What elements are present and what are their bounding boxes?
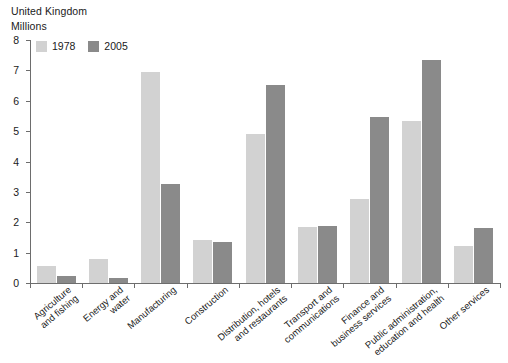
x-axis-category-label: Manufacturing bbox=[124, 284, 177, 331]
y-axis-tick-label: 5 bbox=[13, 125, 19, 137]
bar-2005-4 bbox=[266, 85, 285, 283]
x-axis-category-label: Energy andwater bbox=[81, 284, 132, 332]
bar-1978-4 bbox=[246, 134, 265, 283]
bar-1978-3 bbox=[193, 240, 212, 283]
bar-2005-7 bbox=[422, 60, 441, 283]
plot-area: 876543210 bbox=[30, 40, 500, 283]
bar-2005-5 bbox=[318, 226, 337, 283]
bar-2005-6 bbox=[370, 117, 389, 283]
x-axis-category-labels: Agricultureand fishingEnergy andwaterMan… bbox=[30, 284, 508, 363]
bar-1978-6 bbox=[350, 199, 369, 283]
bar-2005-3 bbox=[213, 242, 232, 283]
chart-title-country: United Kingdom bbox=[11, 5, 87, 17]
bar-1978-0 bbox=[37, 266, 56, 283]
bars-layer bbox=[30, 40, 500, 283]
chart-axis-units-label: Millions bbox=[11, 20, 47, 32]
bar-1978-7 bbox=[402, 121, 421, 283]
bar-2005-8 bbox=[474, 228, 493, 283]
bar-1978-2 bbox=[141, 72, 160, 283]
bar-2005-0 bbox=[57, 276, 76, 283]
bar-2005-2 bbox=[161, 184, 180, 283]
y-axis-tick-label: 6 bbox=[13, 95, 19, 107]
y-axis-tick-label: 0 bbox=[13, 277, 19, 289]
y-axis-tick-label: 3 bbox=[13, 186, 19, 198]
x-axis-category-label: Construction bbox=[182, 284, 230, 327]
y-axis-tick-label: 4 bbox=[13, 156, 19, 168]
bar-chart: United Kingdom Millions 19782005 8765432… bbox=[0, 0, 508, 363]
y-axis-tick-label: 8 bbox=[13, 34, 19, 46]
y-axis-tick-label: 7 bbox=[13, 64, 19, 76]
bar-1978-5 bbox=[298, 227, 317, 283]
y-axis-tick-label: 2 bbox=[13, 216, 19, 228]
x-axis-category-label: Other services bbox=[437, 284, 491, 332]
x-axis-category-label: Agricultureand fishing bbox=[31, 284, 80, 330]
bar-1978-1 bbox=[89, 259, 108, 283]
y-axis-tick-label: 1 bbox=[13, 247, 19, 259]
bar-1978-8 bbox=[454, 246, 473, 283]
bar-2005-1 bbox=[109, 278, 128, 283]
